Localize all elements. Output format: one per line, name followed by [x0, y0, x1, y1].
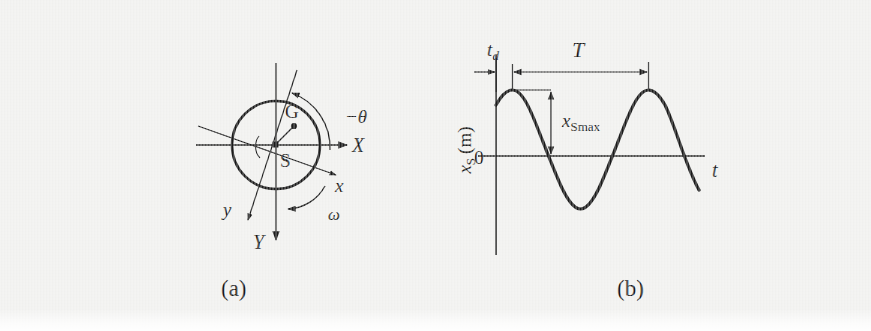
label-body-axis-x: x	[334, 175, 344, 196]
panel-a-group: S G X Y x y −θ ω (a)	[196, 63, 367, 301]
label-period: T	[572, 37, 586, 62]
caption-panel-a: (a)	[221, 276, 247, 301]
label-delay-time-sub: d	[492, 48, 499, 63]
caption-panel-b: (b)	[617, 276, 644, 301]
waveform-curve	[496, 90, 699, 209]
figure-container: S G X Y x y −θ ω (a)	[0, 0, 871, 331]
label-y-axis: xS(m)	[454, 126, 478, 174]
label-space-axis-y: Y	[253, 231, 266, 253]
omega-arc	[288, 186, 325, 209]
label-point-s: S	[280, 150, 291, 171]
label-amplitude-sub: Smax	[570, 119, 600, 134]
panel-b-group: td T xSmax 0 t xS(m) (b)	[454, 37, 718, 301]
label-delay-time: td	[487, 39, 499, 63]
body-axis-x-line	[198, 126, 336, 175]
label-omega: ω	[328, 205, 340, 224]
label-y-axis-unit: (m)	[454, 126, 476, 153]
label-amplitude: xSmax	[561, 110, 601, 134]
label-y-axis-sub: S	[463, 158, 478, 165]
label-theta-angle: −θ	[345, 106, 367, 127]
label-space-axis-x: X	[351, 134, 365, 156]
figure-svg: S G X Y x y −θ ω (a)	[0, 0, 871, 331]
label-t-axis: t	[712, 159, 718, 181]
label-body-axis-y: y	[221, 199, 232, 220]
label-point-g: G	[285, 101, 299, 122]
